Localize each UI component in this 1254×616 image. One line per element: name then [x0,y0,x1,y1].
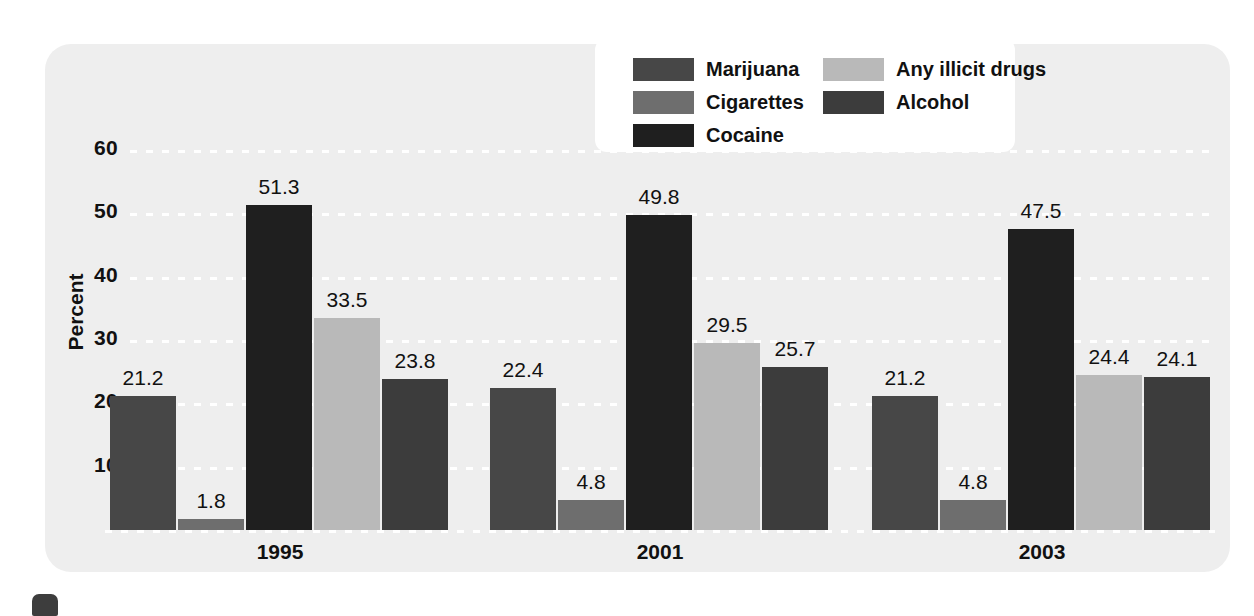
y-axis-label: Percent [64,232,88,392]
bar-2001-alcohol [762,367,828,530]
bar-value-label: 1.8 [164,489,258,513]
bar-2001-marijuana [490,388,556,530]
bar-value-label: 21.2 [96,366,190,390]
group-label-1995: 1995 [110,540,450,564]
bar-value-label: 51.3 [232,175,326,199]
legend-item[interactable]: Marijuana [633,54,804,85]
bar-2003-any-illicit-drugs [1076,375,1142,530]
bar-value-label: 21.2 [858,366,952,390]
legend-item[interactable]: Alcohol [823,87,1046,118]
bar-value-label: 29.5 [680,313,774,337]
bar-value-label: 23.8 [368,349,462,373]
bar-value-label: 49.8 [612,185,706,209]
legend-item[interactable]: Cocaine [633,120,804,151]
bar-1995-cocaine [246,205,312,530]
legend-column-2: Any illicit drugsAlcohol [823,54,1046,120]
bar-2003-marijuana [872,396,938,530]
legend-swatch-icon [633,124,694,147]
bar-2001-cigarettes [558,500,624,530]
bar-2003-cigarettes [940,500,1006,530]
y-tick-20: 20 [58,389,118,413]
bar-1995-alcohol [382,379,448,530]
y-tick-50: 50 [58,199,118,223]
axis-baseline [105,530,1215,533]
bar-value-label: 24.1 [1130,347,1224,371]
legend-swatch-icon [823,58,884,81]
group-label-2003: 2003 [872,540,1212,564]
bar-value-label: 33.5 [300,288,394,312]
legend-label: Any illicit drugs [896,58,1046,81]
group-label-2001: 2001 [490,540,830,564]
bar-value-label: 25.7 [748,337,842,361]
bar-1995-cigarettes [178,519,244,530]
bar-value-label: 4.8 [544,470,638,494]
bar-2003-cocaine [1008,229,1074,530]
bar-2001-any-illicit-drugs [694,343,760,530]
legend-item[interactable]: Cigarettes [633,87,804,118]
legend-swatch-icon [823,91,884,114]
legend-label: Alcohol [896,91,969,114]
bar-value-label: 22.4 [476,358,570,382]
page-corner-mark-icon [32,594,58,616]
bar-value-label: 47.5 [994,199,1088,223]
legend-label: Cocaine [706,124,784,147]
chart-legend: MarijuanaCigarettesCocaine Any illicit d… [595,38,1015,152]
legend-swatch-icon [633,91,694,114]
bar-2001-cocaine [626,215,692,530]
bar-2003-alcohol [1144,377,1210,530]
legend-label: Cigarettes [706,91,804,114]
legend-swatch-icon [633,58,694,81]
bar-value-label: 4.8 [926,470,1020,494]
y-tick-60: 60 [58,136,118,160]
y-tick-10: 10 [58,453,118,477]
legend-column-1: MarijuanaCigarettesCocaine [633,54,804,153]
legend-item[interactable]: Any illicit drugs [823,54,1046,85]
legend-label: Marijuana [706,58,799,81]
